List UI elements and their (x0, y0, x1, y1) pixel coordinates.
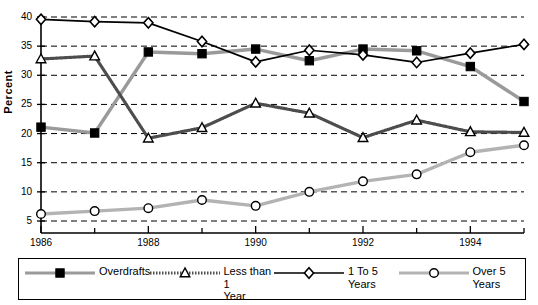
x-tick-label: 1988 (128, 237, 168, 248)
series-1 (36, 51, 529, 142)
series-line (41, 56, 524, 138)
data-point-marker (412, 47, 420, 55)
legend-item-2[interactable]: 1 To 5 Years (272, 265, 397, 290)
legend-item-1[interactable]: Less than 1 Year (148, 265, 273, 303)
data-point-marker (520, 97, 528, 105)
y-tick-label: 30 (10, 69, 32, 80)
data-point-marker (144, 18, 153, 28)
data-point-marker (305, 188, 314, 197)
legend-label: Over 5 Years (471, 265, 506, 290)
y-tick-label: 40 (10, 11, 32, 22)
legend-item-0[interactable]: Overdrafts (23, 265, 148, 281)
data-series-layer (36, 14, 529, 218)
y-tick-label: 35 (10, 40, 32, 51)
plot-area (0, 0, 538, 258)
legend-label: Overdrafts (97, 265, 150, 278)
data-point-marker (90, 16, 99, 26)
x-tick-label: 1990 (236, 237, 276, 248)
chart-legend: OverdraftsLess than 1 Year1 To 5 YearsOv… (18, 258, 526, 300)
y-tick-label: 10 (10, 186, 32, 197)
data-point-marker (359, 177, 368, 186)
y-tick-label: 5 (10, 215, 32, 226)
data-point-marker (198, 196, 207, 205)
legend-item-3[interactable]: Over 5 Years (397, 265, 522, 290)
data-point-marker (429, 269, 438, 278)
legend-label: 1 To 5 Years (346, 265, 378, 290)
data-point-marker (197, 36, 206, 46)
series-line (41, 49, 524, 133)
data-point-marker (37, 210, 46, 219)
data-point-marker (412, 170, 421, 179)
chart-container: Percent 403530252015105 1986198819901992… (0, 0, 538, 305)
y-tick-label: 25 (10, 98, 32, 109)
data-point-marker (520, 141, 529, 150)
data-point-marker (36, 14, 45, 24)
data-point-marker (56, 269, 64, 277)
x-axis-ticks (41, 226, 524, 233)
data-point-marker (412, 57, 421, 67)
x-tick-label: 1992 (343, 237, 383, 248)
x-tick-label: 1986 (21, 237, 61, 248)
data-point-marker (37, 123, 45, 131)
data-point-marker (304, 268, 313, 278)
series-2 (36, 14, 528, 68)
y-tick-label: 15 (10, 157, 32, 168)
legend-swatch (397, 265, 471, 281)
data-point-marker (466, 48, 475, 58)
data-point-marker (90, 207, 99, 216)
data-point-marker (251, 202, 260, 211)
data-point-marker (180, 268, 190, 277)
series-line (41, 19, 524, 62)
data-point-marker (466, 148, 475, 157)
series-0 (37, 45, 528, 137)
y-tick-label: 20 (10, 128, 32, 139)
data-point-marker (90, 129, 98, 137)
x-tick-label: 1994 (450, 237, 490, 248)
gridlines (41, 17, 524, 221)
data-point-marker (519, 39, 528, 49)
data-point-marker (305, 57, 313, 65)
series-3 (37, 141, 529, 218)
data-point-marker (466, 62, 474, 70)
series-line (41, 145, 524, 214)
data-point-marker (251, 45, 259, 53)
data-point-marker (198, 50, 206, 58)
legend-swatch (23, 265, 97, 281)
data-point-marker (144, 204, 153, 213)
data-point-marker (144, 48, 152, 56)
legend-swatch (272, 265, 346, 281)
legend-label: Less than 1 Year (222, 265, 273, 303)
data-point-marker (251, 57, 260, 67)
legend-swatch (148, 265, 222, 281)
